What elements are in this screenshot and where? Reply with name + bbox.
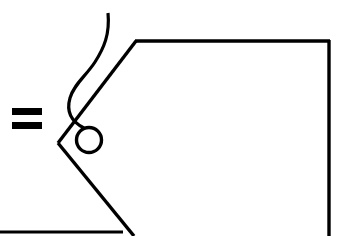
figure-canvas: = xyxy=(0,0,343,236)
figure-background xyxy=(0,0,343,236)
equals-sign-lower-bar xyxy=(12,122,42,129)
line-drawing-figure xyxy=(0,0,343,236)
equals-sign-upper-bar xyxy=(12,108,42,115)
